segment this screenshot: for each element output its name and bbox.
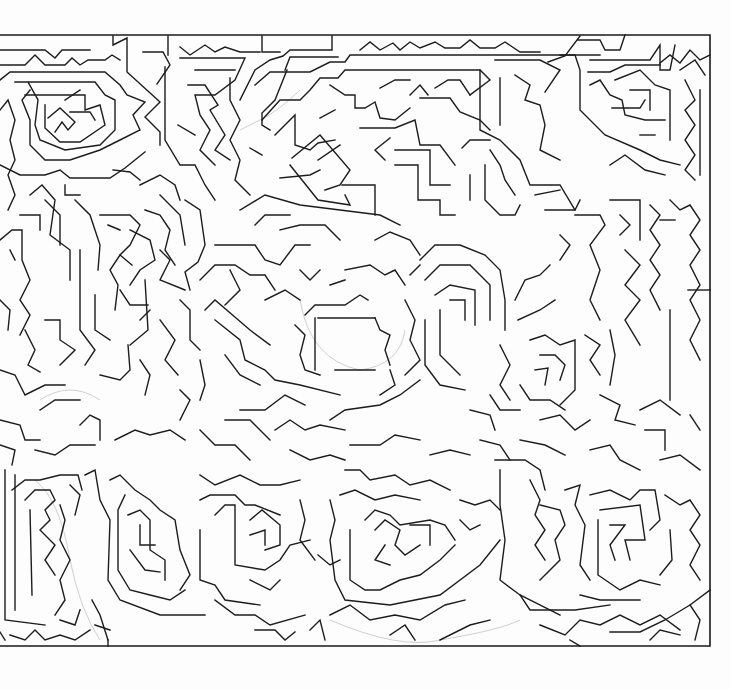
maze-walls: [0, 35, 710, 646]
maze-frame: [0, 35, 710, 646]
maze-drawing: [0, 0, 731, 689]
maze-image: [0, 0, 731, 689]
pencil-trace: [35, 90, 520, 643]
